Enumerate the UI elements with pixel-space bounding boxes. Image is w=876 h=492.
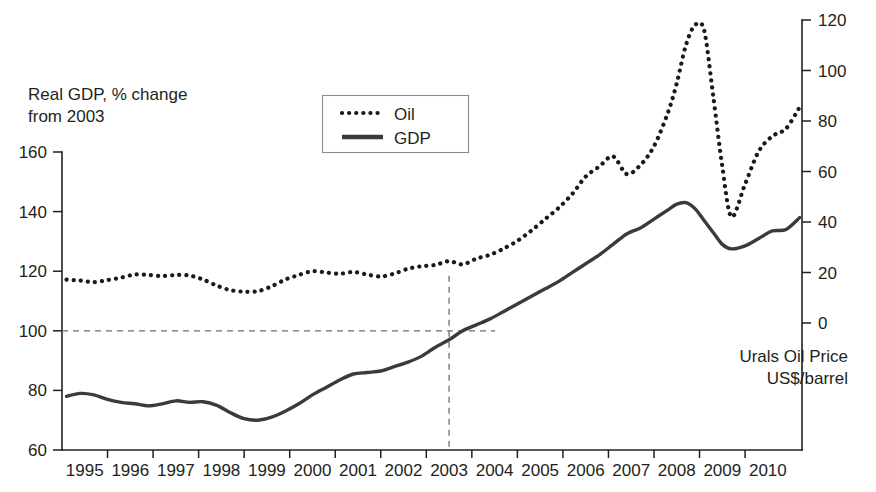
right-tick-label: 100 [818, 62, 846, 81]
right-tick-label: 60 [818, 163, 837, 182]
x-tick-label: 2002 [385, 461, 423, 480]
x-tick-label: 2009 [703, 461, 741, 480]
left-tick-label: 60 [28, 441, 47, 460]
left-tick-label: 160 [19, 143, 47, 162]
right-axis-ticks: 020406080100120 [802, 11, 846, 333]
left-tick-label: 120 [19, 262, 47, 281]
x-tick-label: 2008 [658, 461, 696, 480]
right-tick-label: 40 [818, 213, 837, 232]
right-tick-label: 0 [818, 314, 827, 333]
series-line-gdp [67, 202, 800, 420]
left-axis-ticks: 6080100120140160 [19, 143, 62, 460]
left-axis-title-line1: Real GDP, % change [28, 85, 187, 104]
dual-axis-line-chart: 6080100120140160 020406080100120 1995199… [0, 0, 876, 492]
x-tick-label: 1997 [157, 461, 195, 480]
x-tick-label: 2003 [430, 461, 468, 480]
reference-lines [62, 276, 495, 450]
left-axis-title: Real GDP, % change from 2003 [28, 85, 187, 126]
series-line-oil [67, 23, 800, 292]
right-axis-title-line1: Urals Oil Price [739, 347, 848, 366]
x-tick-label: 2004 [476, 461, 514, 480]
chart-legend: Oil GDP [323, 96, 469, 153]
left-axis-title-line2: from 2003 [28, 107, 105, 126]
x-axis-ticks: 1995199619971998199920002001200220032004… [66, 450, 787, 480]
x-tick-label: 1996 [111, 461, 149, 480]
left-tick-label: 140 [19, 203, 47, 222]
left-tick-label: 80 [28, 381, 47, 400]
right-tick-label: 120 [818, 11, 846, 30]
left-tick-label: 100 [19, 322, 47, 341]
x-tick-label: 2006 [567, 461, 605, 480]
x-tick-label: 1999 [248, 461, 286, 480]
right-axis-title: Urals Oil Price US$/barrel [739, 347, 848, 388]
x-tick-label: 1998 [202, 461, 240, 480]
right-axis-title-line2: US$/barrel [767, 369, 848, 388]
x-tick-label: 2000 [294, 461, 332, 480]
data-series [67, 23, 800, 421]
legend-label-oil: Oil [394, 105, 415, 124]
chart-container: 6080100120140160 020406080100120 1995199… [0, 0, 876, 492]
legend-label-gdp: GDP [394, 129, 431, 148]
x-tick-label: 2007 [612, 461, 650, 480]
right-tick-label: 20 [818, 264, 837, 283]
right-tick-label: 80 [818, 112, 837, 131]
x-tick-label: 2001 [339, 461, 377, 480]
x-tick-label: 2010 [749, 461, 787, 480]
x-tick-label: 1995 [66, 461, 104, 480]
x-tick-label: 2005 [521, 461, 559, 480]
